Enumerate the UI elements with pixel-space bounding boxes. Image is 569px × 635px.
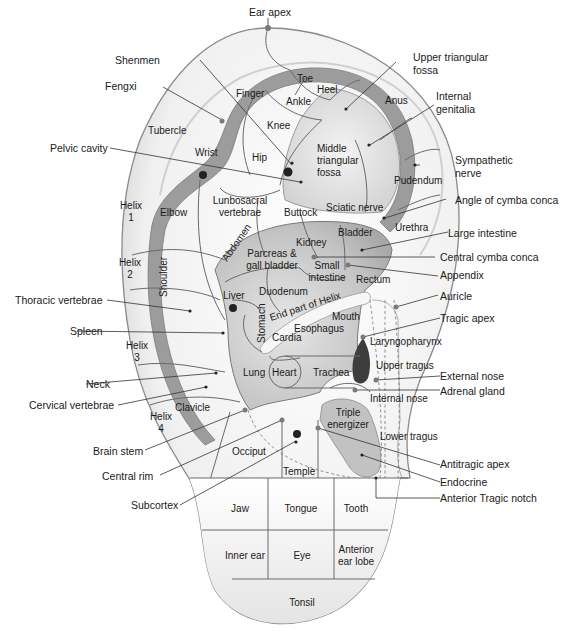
region-shoulder: Shoulder	[158, 256, 169, 297]
region-cardia: Cardia	[272, 332, 302, 343]
region-tonsil: Tonsil	[289, 597, 315, 608]
label-internal-genitalia: Internalgenitalia	[436, 90, 475, 115]
label-external-nose: External nose	[440, 370, 504, 382]
region-wrist: Wrist	[195, 147, 218, 158]
label-brain-stem: Brain stem	[93, 445, 143, 457]
region-pancreas-gall-bladder: Parcreas &gall bladder	[246, 248, 298, 271]
region-laryngopharynx: Laryngopharynx	[370, 336, 442, 347]
label-neck: Neck	[86, 378, 111, 390]
region-inner-ear: Inner ear	[225, 550, 266, 561]
region-heart: Heart	[272, 367, 297, 378]
ear-acupuncture-diagram: Ear apex Shenmen Fengxi Pelvic cavity Th…	[0, 0, 569, 635]
label-pelvic-cavity: Pelvic cavity	[50, 142, 109, 154]
label-ear-apex: Ear apex	[249, 6, 292, 18]
region-tooth: Tooth	[344, 503, 368, 514]
ear-apex-point	[265, 25, 271, 31]
label-subcortex: Subcortex	[131, 499, 179, 511]
region-occiput: Occiput	[232, 446, 266, 457]
region-mouth: Mouth	[332, 311, 360, 322]
region-kidney: Kidney	[296, 237, 327, 248]
region-urethra: Urethra	[395, 222, 429, 233]
label-sympathetic-nerve: Sympatheticnerve	[455, 154, 513, 179]
region-liver: Liver	[223, 290, 245, 301]
label-upper-triangular-fossa: Upper triangularfossa	[413, 51, 489, 76]
region-clavicle: Clavicle	[175, 402, 210, 413]
label-angle-of-cymba-conca: Angle of cymba conca	[455, 194, 558, 206]
region-sciatic-nerve: Sciatic nerve	[326, 202, 384, 213]
label-anterior-tragic-notch: Anterior Tragic notch	[440, 492, 537, 504]
region-tubercle: Tubercle	[148, 125, 187, 136]
label-central-cymba-conca: Central cymba conca	[440, 251, 539, 263]
region-internal-nose: Internal nose	[370, 393, 428, 404]
region-lung: Lung	[243, 367, 265, 378]
region-temple: Temple	[283, 466, 316, 477]
label-large-intestine: Large intestine	[448, 227, 517, 239]
label-tragic-apex: Tragic apex	[440, 312, 495, 324]
region-lower-tragus: Lower tragus	[380, 431, 438, 442]
region-duodenum: Duodenum	[259, 286, 308, 297]
label-fengxi: Fengxi	[105, 80, 137, 92]
region-hip: Hip	[252, 152, 267, 163]
region-jaw: Jaw	[231, 503, 250, 514]
label-cervical-vertebrae: Cervical vertebrae	[29, 399, 114, 411]
label-spleen: Spleen	[70, 325, 103, 337]
region-heel: Heel	[317, 84, 338, 95]
label-adrenal-gland: Adrenal gland	[440, 385, 505, 397]
region-trachea: Trachea	[313, 367, 350, 378]
region-esophagus: Esophagus	[294, 323, 344, 334]
region-ankle: Ankle	[286, 96, 311, 107]
region-rectum: Rectum	[356, 274, 390, 285]
region-stomach: Stomach	[256, 304, 267, 343]
region-bladder: Bladder	[338, 227, 373, 238]
region-tongue: Tongue	[285, 503, 318, 514]
label-appendix: Appendix	[440, 269, 485, 281]
label-auricle: Auricle	[440, 290, 472, 302]
region-finger: Finger	[236, 88, 265, 99]
region-anterior-ear-lobe: Anteriorear lobe	[338, 544, 375, 567]
region-lunbosacral-vertebrae: Lunbosacralvertebrae	[213, 195, 267, 218]
region-knee: Knee	[267, 120, 291, 131]
label-endocrine: Endocrine	[440, 476, 487, 488]
region-pudendum: Pudendum	[394, 175, 442, 186]
label-central-rim: Central rim	[102, 470, 154, 482]
region-buttock: Buttock	[284, 207, 318, 218]
label-antitragic-apex: Antitragic apex	[440, 458, 510, 470]
label-thoracic-vertebrae: Thoracic vertebrae	[15, 294, 103, 306]
region-toe: Toe	[297, 73, 314, 84]
region-elbow: Elbow	[160, 207, 188, 218]
label-shenmen: Shenmen	[115, 54, 160, 66]
region-anus: Anus	[385, 95, 408, 106]
region-upper-tragus: Upper tragus	[376, 360, 434, 371]
region-eye: Eye	[293, 550, 311, 561]
